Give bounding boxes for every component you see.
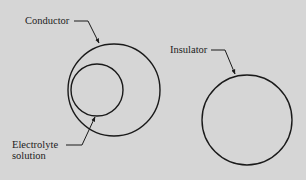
electrolyte-label: Electrolyte solution	[12, 139, 58, 161]
electrolyte-label-line2: solution	[12, 150, 58, 161]
conductor-leader-line	[74, 21, 99, 43]
conductor-circle	[68, 44, 160, 136]
conductor-label: Conductor	[25, 15, 69, 26]
insulator-leader-line	[211, 50, 235, 74]
insulator-label: Insulator	[170, 44, 207, 55]
insulator-circle	[202, 75, 292, 165]
electrolyte-circle	[71, 64, 123, 116]
electrolyte-label-line1: Electrolyte	[12, 139, 58, 150]
